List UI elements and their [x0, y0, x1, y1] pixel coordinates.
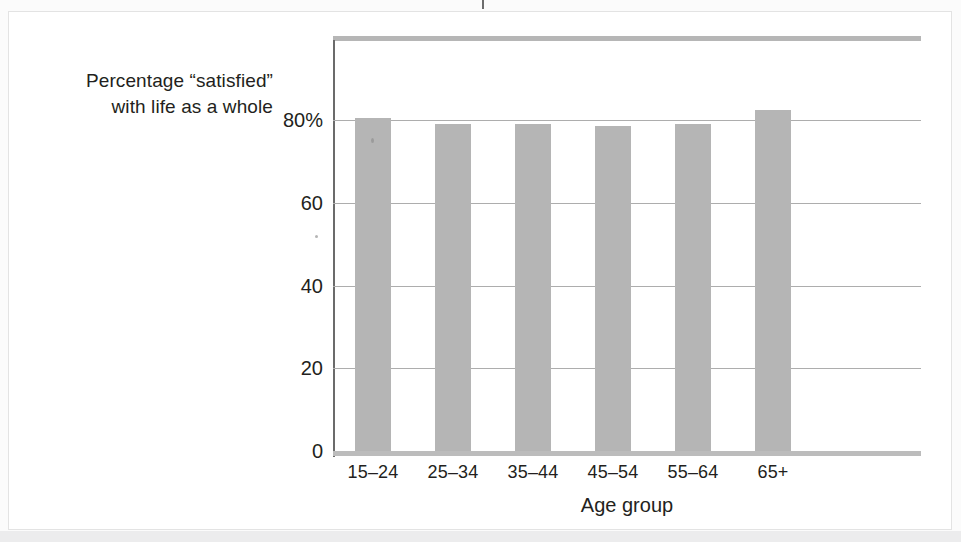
y-tick-label: 60 — [301, 191, 323, 214]
y-tick-label: 0 — [312, 440, 323, 463]
bar-25–34 — [435, 124, 471, 451]
bar-45–54 — [595, 126, 631, 451]
bar-35–44 — [515, 124, 551, 451]
scan-edge-tick — [482, 0, 484, 9]
x-tick-label-25–34: 25–34 — [427, 462, 478, 483]
x-tick-label-65+: 65+ — [757, 462, 788, 483]
y-tick-label: 20 — [301, 357, 323, 380]
plot-area: 020406080% 15–2425–3435–4445–5455–6465+ — [333, 36, 921, 457]
y-tick-label: 40 — [301, 274, 323, 297]
y-axis-title-line-1: Percentage “satisfied” — [18, 68, 273, 94]
y-axis-title: Percentage “satisfied” with life as a wh… — [18, 68, 273, 120]
x-tick-label-15–24: 15–24 — [347, 462, 398, 483]
scan-speckle — [371, 138, 374, 143]
scan-speckle — [315, 235, 318, 238]
x-axis-title: Age group — [333, 494, 921, 517]
y-axis-title-line-2: with life as a whole — [18, 94, 273, 120]
bar-55–64 — [675, 124, 711, 451]
figure-root: Percentage “satisfied” with life as a wh… — [0, 0, 961, 542]
bars-group — [333, 36, 921, 457]
y-tick-label: 80% — [283, 109, 323, 132]
page-bottom-band — [0, 531, 961, 542]
x-tick-label-35–44: 35–44 — [507, 462, 558, 483]
bar-15–24 — [355, 118, 391, 451]
x-tick-label-45–54: 45–54 — [587, 462, 638, 483]
x-tick-label-55–64: 55–64 — [667, 462, 718, 483]
bar-65+ — [755, 110, 791, 451]
